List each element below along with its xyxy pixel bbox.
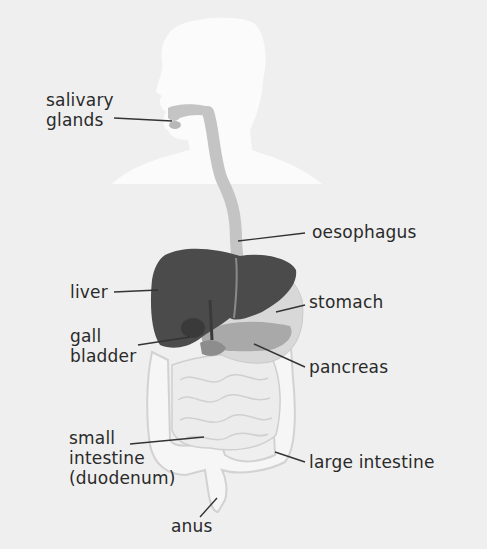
label-line: small: [69, 428, 176, 448]
label-large-intestine: large intestine: [309, 452, 435, 472]
label-liver: liver: [70, 282, 108, 302]
label-line: intestine: [69, 448, 176, 468]
gall-bladder-shape: [181, 318, 205, 338]
salivary-gland: [169, 121, 181, 129]
label-line: bladder: [70, 346, 136, 366]
label-oesophagus: oesophagus: [312, 222, 417, 242]
label-line: gall: [70, 326, 136, 346]
label-gall-bladder: gall bladder: [70, 326, 136, 366]
label-small-intestine: small intestine (duodenum): [69, 428, 176, 488]
label-line: salivary: [46, 90, 114, 110]
label-line: glands: [46, 110, 114, 130]
label-pancreas: pancreas: [309, 357, 388, 377]
bile-duct: [210, 300, 212, 340]
label-stomach: stomach: [309, 292, 383, 312]
label-salivary-glands: salivary glands: [46, 90, 114, 130]
label-anus: anus: [171, 516, 213, 536]
label-line: (duodenum): [69, 468, 176, 488]
